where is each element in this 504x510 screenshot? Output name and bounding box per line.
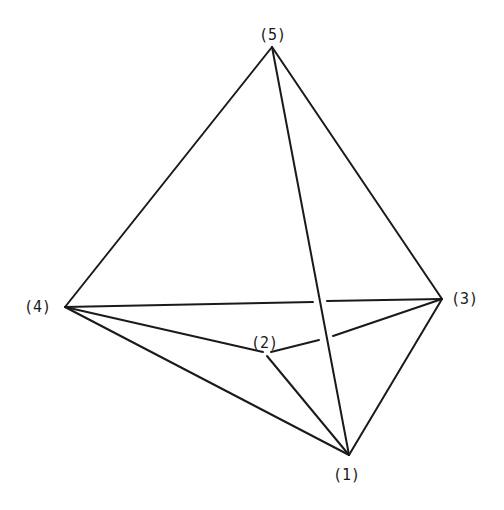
edge-5-3 <box>272 47 442 299</box>
vertex-label-1: (1) <box>333 466 360 484</box>
vertex-label-5: (5) <box>259 26 286 44</box>
edge-4-2 <box>65 307 263 352</box>
edge-4-1 <box>65 307 349 455</box>
edge-5-4 <box>65 47 272 307</box>
vertex-label-4: (4) <box>24 298 51 316</box>
vertex-label-3: (3) <box>451 290 478 308</box>
tetrahedron-diagram: (5) (4) (3) (2) (1) <box>0 0 504 510</box>
vertex-label-2: (2) <box>251 334 278 352</box>
edge-2-1 <box>267 356 349 455</box>
edge-5-1 <box>272 47 349 455</box>
edge-3-1 <box>349 299 442 455</box>
edge-2-3 <box>271 299 442 352</box>
edge-4-3 <box>65 299 442 307</box>
